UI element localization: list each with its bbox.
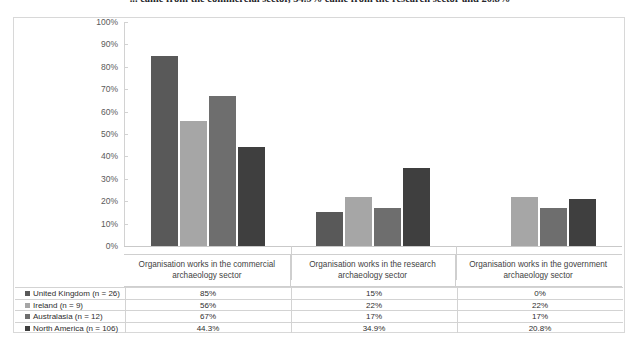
table-vertical-rule-3 <box>457 287 458 333</box>
bar-2-3 <box>374 208 401 246</box>
y-axis-tick-50: 50% <box>101 130 118 139</box>
plot-region: 0%10%20%30%40%50%60%70%80%90%100% <box>14 22 624 254</box>
legend-entry-4: North America (n = 106) <box>25 323 124 335</box>
legend-swatch-icon <box>25 314 30 319</box>
table-row: North America (n = 106)44.3%34.9%20.8% <box>15 322 623 334</box>
category-label-1: Organisation works in the commercial arc… <box>124 254 290 287</box>
category-label-2: Organisation works in the research archa… <box>290 254 456 287</box>
bar-2-1 <box>316 212 343 246</box>
bar-2-2 <box>345 197 372 246</box>
y-axis-tick-0: 0% <box>106 242 118 251</box>
table-cell-4-1: 44.3% <box>125 323 291 335</box>
y-axis-tick-10: 10% <box>101 219 118 228</box>
chart-object-frame: 0%10%20%30%40%50%60%70%80%90%100% Organi… <box>13 17 625 333</box>
bar-3-4 <box>569 199 596 246</box>
chart-data-table: United Kingdom (n = 26)85%15%0%Ireland (… <box>15 287 623 333</box>
bar-3-3 <box>540 208 567 246</box>
document-body-text: ... came from the commercial sector, 34.… <box>0 0 640 5</box>
bar-2-4 <box>403 168 430 246</box>
category-label-3: Organisation works in the government arc… <box>455 254 621 287</box>
bar-1-2 <box>180 121 207 246</box>
bars-area <box>125 22 622 246</box>
bar-group-2 <box>291 22 457 246</box>
y-axis-tick-80: 80% <box>101 62 118 71</box>
y-axis-tick-labels: 0%10%20%30%40%50%60%70%80%90%100% <box>76 22 122 246</box>
table-row: Australasia (n = 12)67%17%17% <box>15 310 623 322</box>
y-axis-tick-20: 20% <box>101 197 118 206</box>
legend-swatch-icon <box>25 303 30 308</box>
screenshot-page: ... came from the commercial sector, 34.… <box>0 0 640 344</box>
y-axis-tick-40: 40% <box>101 152 118 161</box>
x-axis-line <box>124 246 622 247</box>
bar-group-3 <box>456 22 622 246</box>
legend-label: United Kingdom (n = 26) <box>33 289 120 298</box>
bar-1-3 <box>209 96 236 246</box>
bar-1-1 <box>151 56 178 246</box>
legend-swatch-icon <box>25 291 30 296</box>
legend-label: North America (n = 106) <box>33 324 118 333</box>
bar-1-4 <box>238 147 265 246</box>
bar-3-2 <box>511 197 538 246</box>
table-row: United Kingdom (n = 26)85%15%0% <box>15 287 623 299</box>
y-axis-tick-30: 30% <box>101 174 118 183</box>
category-divider-2 <box>455 254 456 287</box>
legend-label: Australasia (n = 12) <box>33 312 103 321</box>
table-cell-4-3: 20.8% <box>457 323 623 335</box>
table-vertical-rule-1 <box>125 287 126 333</box>
legend-swatch-icon <box>25 326 30 331</box>
bar-group-1 <box>125 22 291 246</box>
category-divider-1 <box>290 254 291 287</box>
table-cell-4-2: 34.9% <box>291 323 457 335</box>
y-axis-tick-60: 60% <box>101 107 118 116</box>
table-vertical-rule-2 <box>291 287 292 333</box>
y-axis-tick-90: 90% <box>101 40 118 49</box>
table-row: Ireland (n = 9)56%22%22% <box>15 299 623 311</box>
category-label-strip: Organisation works in the commercial arc… <box>124 254 622 287</box>
legend-label: Ireland (n = 9) <box>33 301 83 310</box>
y-axis-tick-100: 100% <box>96 18 118 27</box>
y-axis-tick-70: 70% <box>101 85 118 94</box>
